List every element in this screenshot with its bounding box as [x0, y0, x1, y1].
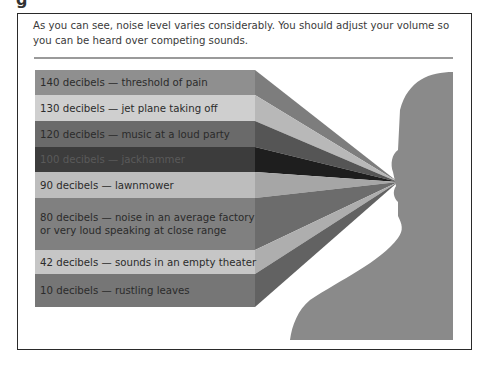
band-label: 80 decibels — noise in an average factor… — [40, 211, 255, 237]
band-label: 42 decibels — sounds in an empty theater — [40, 256, 256, 269]
band-label: 130 decibels — jet plane taking off — [40, 102, 218, 115]
band-label: 100 decibels — jackhammer — [40, 153, 185, 166]
band-label: 120 decibels — music at a loud party — [40, 128, 230, 141]
band-label: 10 decibels — rustling leaves — [40, 284, 190, 297]
band-label: 140 decibels — threshold of pain — [40, 76, 208, 89]
band-label: 90 decibels — lawnmower — [40, 179, 174, 192]
